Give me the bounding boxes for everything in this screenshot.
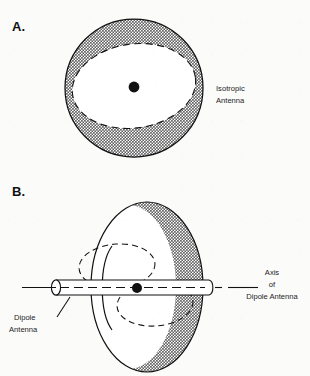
axis-label-line1: Axis [265, 268, 280, 277]
dipole-feed-point [132, 283, 142, 293]
doughnut-shaded-crescent [0, 0, 310, 376]
antenna-radiation-pattern-figure: A. Isotropic Antenna B. [0, 0, 310, 376]
figure-canvas: A. Isotropic Antenna B. [0, 0, 310, 376]
dipole-label-line1: Dipole [14, 313, 36, 322]
dipole-doughnut-group [0, 0, 310, 376]
axis-label-line3: Dipole Antenna [246, 292, 298, 301]
axis-label-line2: of [269, 280, 276, 289]
dipole-label-line2: Antenna [9, 325, 38, 334]
